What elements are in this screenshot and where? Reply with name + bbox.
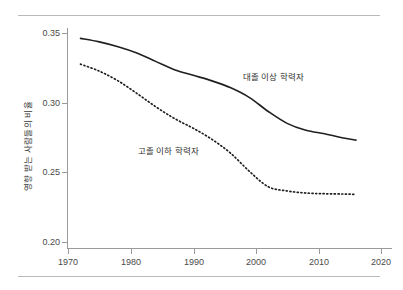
- x-tick-label-2000: 2000: [236, 257, 276, 267]
- y-tick-label-025: 0.25: [26, 167, 60, 177]
- y-axis-ticks: [62, 34, 67, 243]
- x-tick-label-1980: 1980: [111, 257, 151, 267]
- x-tick-label-2010: 2010: [299, 257, 339, 267]
- x-tick-label-1970: 1970: [48, 257, 88, 267]
- y-tick-label-030: 0.30: [26, 98, 60, 108]
- x-tick-label-2020: 2020: [361, 257, 401, 267]
- plot-area: [0, 0, 403, 290]
- series-annotation-college: 대졸 이상 학력자: [243, 70, 304, 82]
- y-tick-label-020: 0.20: [26, 237, 60, 247]
- x-tick-label-1990: 1990: [174, 257, 214, 267]
- chart-figure: 영향 받는 사람들의 비율 0.35 0.30 0.25 0.20 1970 1…: [0, 0, 403, 290]
- x-axis-ticks: [69, 249, 382, 254]
- series-annotation-highschool: 고졸 이하 학력자: [138, 144, 199, 156]
- y-tick-label-035: 0.35: [26, 28, 60, 38]
- series-line-college: [81, 38, 356, 140]
